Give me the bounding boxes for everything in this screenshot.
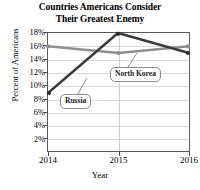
- y-tick-label-8: 8%: [1, 95, 45, 104]
- y-tick-label-4: 4%: [1, 121, 45, 130]
- callout-label-north-korea: North Korea: [110, 67, 161, 82]
- series-line-russia: [48, 33, 189, 93]
- y-tick-label-2: 2%: [1, 135, 45, 144]
- data-point-north-korea-2014: [46, 44, 50, 48]
- chart-title: Countries Americans Consider Their Great…: [0, 2, 200, 25]
- data-point-russia-2016: [186, 51, 190, 55]
- y-tick-label-16: 16%: [1, 42, 45, 51]
- y-tick-label-18: 18%: [1, 28, 45, 37]
- data-point-north-korea-2016: [186, 44, 190, 48]
- chart-title-line-1: Countries Americans Consider: [0, 2, 200, 14]
- data-point-russia-2015: [116, 32, 120, 36]
- x-axis-title: Year: [0, 170, 200, 180]
- data-point-north-korea-2015: [116, 51, 120, 55]
- callout-label-russia: Russia: [60, 94, 91, 109]
- chart-title-line-2: Their Greatest Enemy: [0, 14, 200, 26]
- y-tick-label-14: 14%: [1, 55, 45, 64]
- x-tick-label-2016: 2016: [167, 156, 200, 165]
- y-tick-label-6: 6%: [1, 108, 45, 117]
- y-tick-label-10: 10%: [1, 81, 45, 90]
- x-tick-label-2015: 2015: [97, 156, 141, 165]
- x-tick-label-2014: 2014: [26, 156, 70, 165]
- series-plot: [48, 33, 191, 153]
- plot-area: [47, 32, 190, 152]
- data-point-russia-2014: [47, 91, 51, 95]
- chart-figure: Countries Americans Consider Their Great…: [0, 0, 200, 190]
- y-tick-label-12: 12%: [1, 68, 45, 77]
